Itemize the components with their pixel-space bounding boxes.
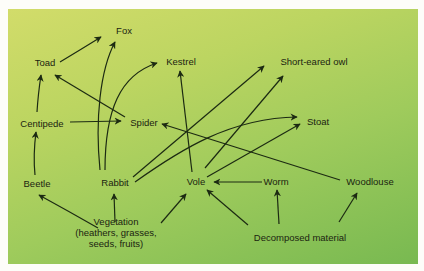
node-vole: Vole xyxy=(187,176,206,187)
food-web-arrows xyxy=(0,0,424,271)
node-vegetation: Vegetation (heathers, grasses, seeds, fr… xyxy=(75,216,156,249)
node-woodlouse: Woodlouse xyxy=(346,176,393,187)
node-kestrel: Kestrel xyxy=(166,56,196,67)
node-toad: Toad xyxy=(35,57,56,68)
node-spider: Spider xyxy=(130,117,157,128)
edge-decomposed-woodlouse xyxy=(339,193,357,222)
vegetation-detail-line-1: (heathers, grasses, xyxy=(75,227,156,238)
edge-decomposed-vole xyxy=(207,190,248,225)
node-stoat: Stoat xyxy=(307,116,329,127)
node-decomposed-material: Decomposed material xyxy=(254,232,346,243)
vegetation-detail-line-2: seeds, fruits) xyxy=(75,238,156,249)
edge-spider-toad xyxy=(55,75,125,117)
edge-decomposed-worm xyxy=(277,190,279,224)
vegetation-label: Vegetation xyxy=(75,216,156,227)
edge-vegetation-vole xyxy=(161,194,186,223)
edge-centipede-spider xyxy=(70,121,121,122)
node-fox: Fox xyxy=(116,25,132,36)
edge-beetle-centipede xyxy=(34,132,36,175)
edge-centipede-toad xyxy=(37,75,41,112)
edge-toad-fox xyxy=(60,37,101,62)
node-worm: Worm xyxy=(263,176,288,187)
edge-vole-owl xyxy=(205,76,283,168)
edge-vole-kestrel xyxy=(180,71,192,172)
node-short-eared-owl: Short-eared owl xyxy=(280,56,347,67)
edge-woodlouse-spider xyxy=(162,124,340,180)
node-rabbit: Rabbit xyxy=(101,177,128,188)
node-centipede: Centipede xyxy=(20,118,63,129)
node-beetle: Beetle xyxy=(24,178,51,189)
